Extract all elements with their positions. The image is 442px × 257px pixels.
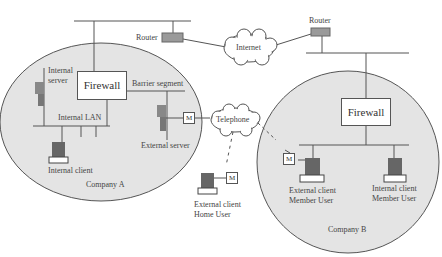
internal-server-label-1: Internal bbox=[48, 66, 73, 75]
home-user-label-2: Home User bbox=[194, 210, 231, 219]
external-server-label: External server bbox=[141, 141, 190, 150]
ext-member-label-1: External client bbox=[289, 186, 336, 195]
firewall-a-box: Firewall bbox=[77, 71, 127, 100]
modem-member-box: M bbox=[283, 153, 295, 165]
router-b-label: Router bbox=[309, 16, 331, 25]
internal-server-label-2: server bbox=[48, 76, 68, 85]
router-b-icon bbox=[311, 28, 330, 36]
company-a-label: Company A bbox=[86, 180, 124, 189]
internet-label: Internet bbox=[236, 43, 261, 52]
router-a-icon bbox=[162, 33, 183, 42]
modem-server-box: M bbox=[183, 112, 195, 124]
int-member-label-1: Internal client bbox=[372, 184, 417, 193]
internal-lan-label: Internal LAN bbox=[58, 113, 101, 122]
barrier-segment-label: Barrier segment bbox=[132, 79, 183, 88]
ext-member-label-2: Member User bbox=[289, 196, 333, 205]
int-member-label-2: Member User bbox=[372, 194, 416, 203]
router-a-label: Router bbox=[136, 33, 158, 42]
home-user-label-1: External client bbox=[194, 200, 241, 209]
telephone-label: Telephone bbox=[216, 115, 249, 124]
company-a-zone bbox=[0, 43, 202, 201]
internal-client-label: Internal client bbox=[48, 166, 93, 175]
modem-home-box: M bbox=[226, 172, 238, 184]
company-b-label: Company B bbox=[328, 225, 366, 234]
home-user-client-icon bbox=[198, 173, 217, 194]
firewall-b-box: Firewall bbox=[341, 98, 391, 126]
